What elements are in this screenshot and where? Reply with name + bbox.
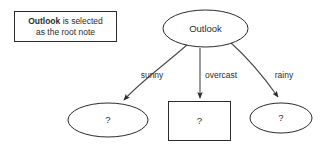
edge-label-rainy: rainy [275,70,294,80]
edge-rainy [230,42,278,97]
callout-annotation: Outlook is selected as the root note [14,11,117,42]
edge-label-overcast: overcast [205,70,238,80]
callout-line-1-rest: is selected [60,16,103,26]
edge-label-sunny: sunny [141,70,164,80]
callout-line-1: Outlook is selected [28,16,103,27]
callout-emphasis: Outlook [28,16,60,26]
node-child-rainy-label: ? [278,112,283,123]
callout-line-2: as the root note [36,27,95,38]
node-root-label: Outlook [189,23,222,34]
diagram-canvas: sunny overcast rainy Outlook ? ? ? Outlo… [0,0,327,146]
node-child-sunny-label: ? [105,114,110,125]
node-child-overcast-label: ? [197,115,202,126]
